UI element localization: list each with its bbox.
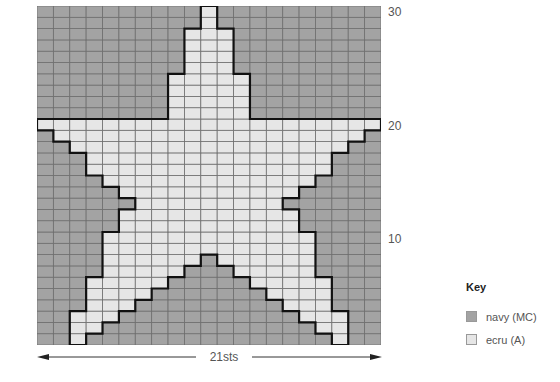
key-label-navy: navy (MC) [486,311,537,323]
stitch-count-label: 21sts [196,350,252,364]
key-legend: Key navy (MC) ecru (A) [466,281,537,351]
knitting-chart [37,6,381,345]
key-label-ecru: ecru (A) [486,334,525,346]
key-item-ecru: ecru (A) [466,328,537,351]
ecru-swatch [466,334,477,345]
key-title: Key [466,281,537,293]
star-motif-grid [37,6,381,345]
navy-swatch [466,311,477,322]
key-item-navy: navy (MC) [466,305,537,328]
row-label-20: 20 [388,120,401,132]
row-label-10: 10 [388,233,401,245]
row-label-30: 30 [388,6,401,18]
